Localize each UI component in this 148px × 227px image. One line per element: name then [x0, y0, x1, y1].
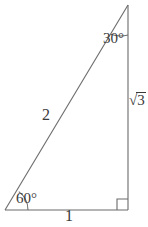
right-angle-marker: [117, 199, 128, 210]
angle-label-bottom-left: 60°: [16, 191, 37, 206]
side-label-hypotenuse: 2: [42, 107, 50, 123]
side-label-base: 1: [65, 208, 73, 224]
radicand-value: 3: [136, 92, 146, 108]
angle-label-apex: 30°: [103, 31, 124, 46]
side-label-vertical: √3: [129, 92, 146, 108]
radical-expression: √3: [129, 92, 146, 108]
geometry-figure: 30° 60° 2 √3 1: [0, 0, 148, 227]
